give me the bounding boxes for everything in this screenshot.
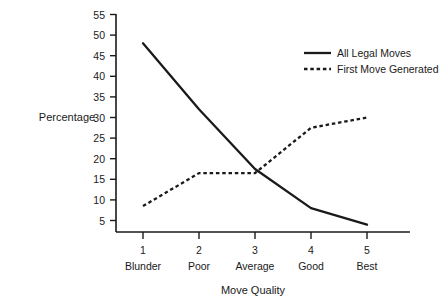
y-axis-ticks	[110, 15, 116, 221]
x-tick-number: 3	[252, 244, 258, 256]
y-tick-label: 40	[93, 70, 105, 82]
y-tick-label: 45	[93, 50, 105, 62]
line-chart: 55 50 45 40 35 30 25 20 15 10 5 1 2 3 4 …	[0, 0, 443, 306]
x-axis-ticks	[143, 232, 367, 239]
x-category-label: Best	[356, 260, 377, 272]
y-tick-label: 25	[93, 132, 105, 144]
y-tick-label: 35	[93, 91, 105, 103]
y-axis-title: Percentage	[39, 111, 95, 123]
series-line-first-move-generated	[143, 118, 367, 207]
legend-label-first-move-generated: First Move Generated	[337, 63, 439, 75]
legend-label-all-legal-moves: All Legal Moves	[337, 47, 411, 59]
y-tick-label: 20	[93, 153, 105, 165]
y-tick-label: 10	[93, 194, 105, 206]
y-tick-label: 50	[93, 29, 105, 41]
y-tick-label: 55	[93, 9, 105, 21]
x-tick-number: 2	[196, 244, 202, 256]
x-axis-title: Move Quality	[221, 284, 286, 296]
y-tick-label: 5	[99, 215, 105, 227]
y-tick-label: 15	[93, 173, 105, 185]
x-category-label: Blunder	[125, 260, 162, 272]
chart-container: 55 50 45 40 35 30 25 20 15 10 5 1 2 3 4 …	[0, 0, 443, 306]
x-category-label: Average	[236, 260, 275, 272]
series-line-all-legal-moves	[143, 43, 367, 224]
x-tick-number: 5	[364, 244, 370, 256]
chart-legend: All Legal Moves First Move Generated	[304, 47, 439, 75]
x-tick-number: 4	[308, 244, 314, 256]
x-tick-number: 1	[140, 244, 146, 256]
x-category-label: Poor	[188, 260, 211, 272]
x-category-label: Good	[298, 260, 324, 272]
